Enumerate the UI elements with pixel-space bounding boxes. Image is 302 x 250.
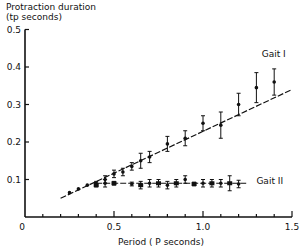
data-point-square (112, 181, 117, 185)
data-point (166, 183, 170, 187)
data-point (112, 172, 116, 176)
data-point (237, 182, 241, 186)
data-point (219, 181, 223, 185)
data-point (148, 155, 152, 159)
data-point (130, 165, 134, 169)
data-point (219, 123, 223, 127)
y-tick-label: 0.3 (7, 100, 21, 110)
data-point-square (209, 181, 214, 185)
data-point (148, 181, 152, 185)
y-tick-label: 0.4 (7, 62, 22, 72)
data-point (139, 159, 143, 163)
x-axis-label: Period ( P seconds) (0, 237, 302, 247)
data-point (130, 182, 134, 186)
x-tick-label: 0.5 (107, 222, 121, 232)
data-point-square (94, 183, 99, 187)
x-tick-label: 1.5 (285, 222, 299, 232)
x-tick-label: 0 (19, 222, 25, 232)
data-point (121, 170, 125, 174)
data-point (255, 86, 259, 90)
y-tick-label: 0.1 (7, 175, 21, 185)
series-annotation: Gait I (262, 49, 286, 59)
data-point (237, 103, 241, 107)
data-point (183, 178, 187, 182)
y-tick-label: 0.2 (7, 137, 21, 147)
series-annotation: Gait II (256, 176, 283, 186)
data-point-square (227, 181, 232, 185)
data-point (272, 80, 276, 84)
data-point (86, 183, 90, 187)
data-point-square (174, 181, 179, 185)
data-point (68, 191, 72, 195)
x-tick-label: 1.0 (196, 222, 211, 232)
data-point (201, 121, 205, 125)
data-point (183, 136, 187, 140)
data-point (103, 181, 107, 185)
data-point-square (192, 182, 197, 186)
data-point (166, 142, 170, 146)
data-point (77, 187, 81, 191)
data-point-square (138, 183, 143, 187)
data-point (201, 181, 205, 185)
data-point-square (156, 181, 161, 185)
chart-plot-area: 0.10.20.30.40.500.51.01.5Gait IGait II (0, 0, 302, 250)
y-tick-label: 0.5 (7, 25, 21, 35)
